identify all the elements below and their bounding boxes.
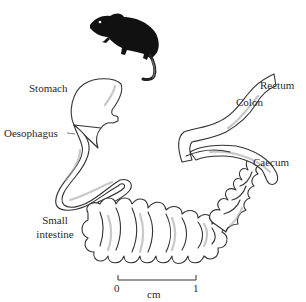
digestive-tract-diagram: Stomach Oesophagus Small intestine Rectu… — [0, 0, 306, 302]
scale-bar-start-label: 0 — [114, 282, 120, 294]
label-small-intestine-line2: intestine — [30, 228, 80, 240]
scale-bar-unit-label: cm — [147, 288, 160, 300]
label-colon: Colon — [236, 96, 263, 108]
label-oesophagus: Oesophagus — [4, 127, 58, 139]
small-intestine-shape — [82, 198, 227, 264]
label-caecum: Caecum — [253, 156, 289, 168]
diagram-drawing — [0, 0, 306, 302]
mouse-icon — [90, 13, 159, 79]
label-small-intestine-line1: Small — [32, 214, 78, 226]
ileum-coil-shape — [210, 158, 260, 232]
label-rectum: Rectum — [260, 79, 294, 91]
scale-bar — [118, 275, 196, 280]
scale-bar-end-label: 1 — [193, 282, 199, 294]
label-stomach: Stomach — [29, 82, 68, 94]
oesophagus-leader-line — [67, 133, 75, 134]
